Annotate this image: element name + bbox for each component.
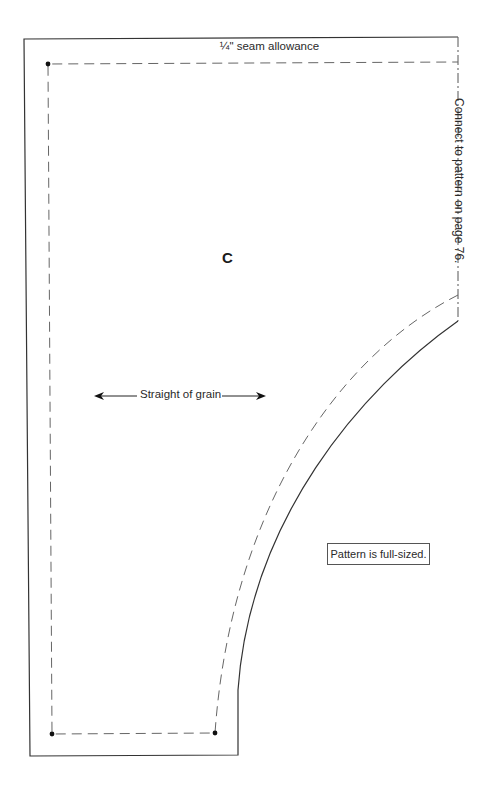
seam-allowance-label: ¼" seam allowance — [0, 40, 489, 52]
pattern-canvas — [0, 0, 489, 791]
corner-dot-icon — [213, 731, 218, 736]
connect-note: Connect to pattern on page 76. — [452, 98, 466, 263]
corner-dot-icon — [50, 732, 55, 737]
seam-line — [48, 62, 458, 734]
piece-label: C — [222, 249, 233, 266]
grain-label: Straight of grain — [140, 388, 221, 400]
corner-dot-icon — [46, 62, 51, 67]
full-size-note: Pattern is full-sized. — [327, 543, 430, 565]
